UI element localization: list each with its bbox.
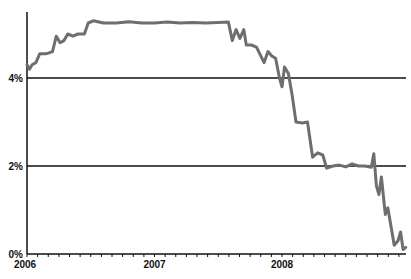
line-chart: 0%2%4% 200620072008 (0, 0, 411, 279)
rate-series-line (27, 21, 406, 250)
x-tick-label: 2006 (14, 259, 37, 270)
x-tick-label: 2008 (271, 259, 294, 270)
x-axis-labels: 200620072008 (14, 259, 294, 270)
y-axis-labels: 0%2%4% (9, 73, 24, 260)
gridlines (27, 78, 406, 166)
y-tick-label: 4% (9, 73, 24, 84)
y-tick-label: 2% (9, 161, 24, 172)
x-tick-label: 2007 (143, 259, 166, 270)
axes (27, 12, 406, 257)
